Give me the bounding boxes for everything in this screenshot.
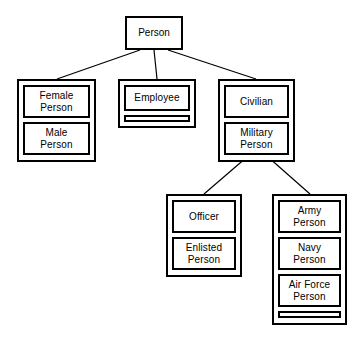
class-hierarchy-diagram: Person Female Person Male Person Employe… <box>0 0 362 341</box>
class-box-officer[interactable]: Officer <box>172 200 236 233</box>
class-label-navy-person: Navy Person <box>293 242 325 265</box>
class-label-civilian: Civilian <box>240 96 273 108</box>
class-box-enlisted-person[interactable]: Enlisted Person <box>172 237 236 270</box>
class-box-military-person[interactable]: Military Person <box>224 122 289 155</box>
group-box-gender-partition[interactable]: Female Person Male Person <box>17 79 96 162</box>
class-label-male-person: Male Person <box>40 127 72 150</box>
class-label-air-force-person: Air Force Person <box>289 279 330 302</box>
class-label-officer: Officer <box>189 211 219 223</box>
group-box-service-status-partition[interactable]: Civilian Military Person <box>218 79 295 162</box>
class-label-army-person: Army Person <box>293 205 325 228</box>
group-empty-slot-branch <box>278 311 341 318</box>
class-box-air-force-person[interactable]: Air Force Person <box>278 274 341 307</box>
class-box-person[interactable]: Person <box>125 16 183 50</box>
connector-person-to-employment <box>154 50 157 79</box>
connector-person-to-gender <box>57 50 140 79</box>
group-box-employment-partition[interactable]: Employee <box>118 79 196 128</box>
group-box-rank-partition[interactable]: Officer Enlisted Person <box>166 194 242 277</box>
class-label-person: Person <box>138 27 170 39</box>
class-box-navy-person[interactable]: Navy Person <box>278 237 341 270</box>
class-label-employee: Employee <box>134 92 179 104</box>
class-box-female-person[interactable]: Female Person <box>23 85 90 118</box>
class-box-civilian[interactable]: Civilian <box>224 85 289 118</box>
connector-person-to-service-status <box>168 50 256 79</box>
connector-military-to-branch <box>268 157 310 194</box>
connector-military-to-rank <box>204 157 247 194</box>
class-label-enlisted-person: Enlisted Person <box>186 242 222 265</box>
class-box-male-person[interactable]: Male Person <box>23 122 90 155</box>
class-box-employee[interactable]: Employee <box>124 85 190 111</box>
class-label-military-person: Military Person <box>240 127 272 150</box>
group-box-branch-partition[interactable]: Army Person Navy Person Air Force Person <box>272 194 347 325</box>
class-label-female-person: Female Person <box>40 90 74 113</box>
class-box-army-person[interactable]: Army Person <box>278 200 341 233</box>
group-empty-slot-employment <box>124 115 190 122</box>
